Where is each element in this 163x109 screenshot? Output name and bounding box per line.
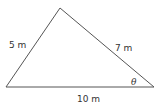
side-left-label: 5 m [9,40,26,50]
triangle-diagram: 5 m 7 m 10 m θ [0,0,163,109]
side-right-label: 7 m [115,43,132,53]
side-base-label: 10 m [77,94,100,104]
angle-theta-label: θ [131,77,137,87]
